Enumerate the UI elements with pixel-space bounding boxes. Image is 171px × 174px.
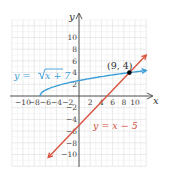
x-tick-label: 6 xyxy=(110,98,115,107)
y-tick-label: −10 xyxy=(61,150,77,159)
sqrt-equation-radicand: x + 7 xyxy=(45,70,71,81)
x-tick-label: −8 xyxy=(29,98,40,107)
x-tick-label: 8 xyxy=(121,98,126,107)
sqrt-equation-label: y = x + 7 xyxy=(13,69,71,81)
x-tick-label: 10 xyxy=(130,98,140,107)
y-tick-label: −4 xyxy=(66,115,77,124)
y-tick-label: 10 xyxy=(67,33,77,42)
y-tick-label: 6 xyxy=(72,57,77,66)
y-tick-label: 4 xyxy=(72,68,77,77)
y-tick-label: −8 xyxy=(66,139,77,148)
sqrt-equation-prefix: y = xyxy=(13,70,30,81)
x-axis-label: x xyxy=(153,95,159,106)
graph: −10−8−6−4−2246810108642−2−4−6−8−10 x y y… xyxy=(0,0,171,174)
y-tick-label: 8 xyxy=(72,45,77,54)
x-tick-label: −6 xyxy=(40,98,51,107)
y-axis-label: y xyxy=(68,11,75,22)
x-tick-label: −4 xyxy=(51,98,62,107)
intersection-label: (9, 4) xyxy=(107,60,133,71)
y-tick-label: −2 xyxy=(66,103,77,112)
x-tick-label: 2 xyxy=(88,98,93,107)
line-equation-label: y = x − 5 xyxy=(92,120,138,131)
